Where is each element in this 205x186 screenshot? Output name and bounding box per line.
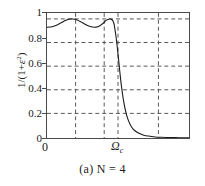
x-tick-label-cutoff: Ωc (111, 140, 123, 157)
omega-subscript: c (120, 146, 124, 155)
y-axis-title-suffix: ) (15, 53, 27, 57)
figure-container: 1 0.8 0.6 0.4 0.2 0 1/(1+ε2) (0, 0, 205, 186)
y-tick-label-0: 0 (12, 133, 42, 144)
plot-svg (47, 13, 189, 138)
x-tick-label-origin: 0 (42, 141, 48, 153)
y-axis-title: 1/(1+ε2) (13, 10, 28, 130)
figure-caption: (a) N = 4 (0, 162, 205, 176)
y-axis-title-prefix: 1/(1+ (15, 64, 27, 88)
epsilon-exponent: 2 (15, 56, 23, 60)
plot-area (46, 12, 190, 139)
omega-symbol: Ω (111, 139, 120, 153)
vertical-gridlines (76, 13, 159, 138)
epsilon-symbol: ε (15, 60, 27, 64)
